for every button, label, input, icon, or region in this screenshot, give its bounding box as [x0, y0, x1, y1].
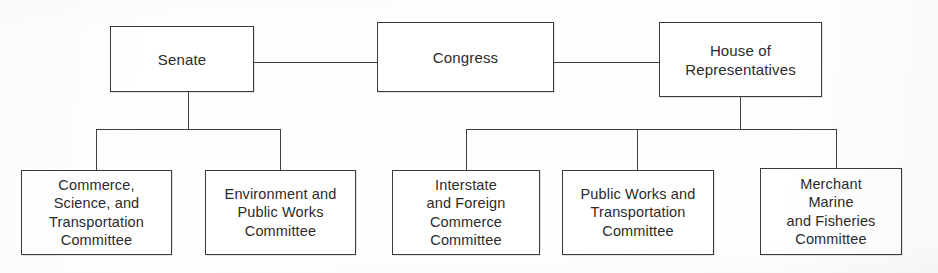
connector-house-child-1	[637, 129, 638, 170]
org-chart: Senate Congress House of Representatives…	[0, 0, 938, 273]
connector-house-bar	[466, 129, 837, 130]
connector-senate-child-0	[96, 129, 97, 170]
connector-house-child-2	[836, 129, 837, 170]
node-commerce-science-transportation-committee[interactable]: Commerce, Science, and Transportation Co…	[21, 170, 172, 255]
node-interstate-foreign-commerce-committee[interactable]: Interstate and Foreign Commerce Committe…	[392, 170, 540, 255]
node-public-works-transportation-committee-label: Public Works and Transportation Committe…	[577, 185, 700, 241]
connector-house-child-0	[466, 129, 467, 170]
connector-senate-to-congress	[253, 62, 377, 63]
node-house-of-representatives[interactable]: House of Representatives	[659, 22, 822, 97]
node-environment-public-works-committee[interactable]: Environment and Public Works Committee	[205, 170, 356, 255]
node-public-works-transportation-committee[interactable]: Public Works and Transportation Committe…	[562, 170, 714, 255]
connector-congress-to-house	[553, 62, 659, 63]
node-interstate-foreign-commerce-committee-label: Interstate and Foreign Commerce Committe…	[422, 176, 509, 250]
node-congress-label: Congress	[429, 48, 502, 67]
node-senate-label: Senate	[154, 50, 210, 69]
node-merchant-marine-fisheries-committee[interactable]: Merchant Marine and Fisheries Committee	[760, 168, 902, 255]
node-congress[interactable]: Congress	[377, 22, 554, 92]
node-commerce-science-transportation-committee-label: Commerce, Science, and Transportation Co…	[45, 176, 148, 250]
node-senate[interactable]: Senate	[110, 26, 254, 92]
node-environment-public-works-committee-label: Environment and Public Works Committee	[221, 185, 341, 241]
connector-senate-drop	[188, 91, 189, 130]
connector-house-drop	[740, 96, 741, 130]
connector-senate-child-1	[280, 129, 281, 170]
node-house-of-representatives-label: House of Representatives	[681, 41, 800, 79]
connector-senate-bar	[96, 129, 281, 130]
node-merchant-marine-fisheries-committee-label: Merchant Marine and Fisheries Committee	[783, 175, 880, 249]
